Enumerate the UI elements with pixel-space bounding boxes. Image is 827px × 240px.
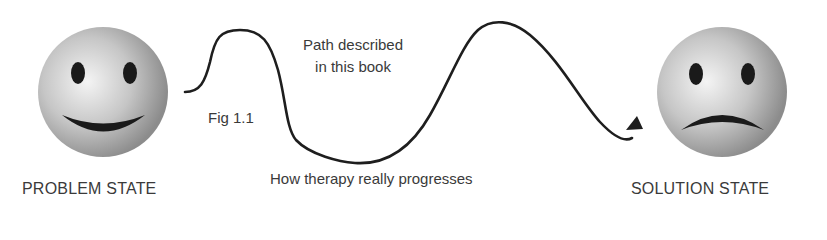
arrowhead-icon	[626, 116, 643, 130]
path-described-line1: Path described	[288, 34, 418, 56]
figure-label: Fig 1.1	[208, 107, 254, 129]
problem-state-label: PROBLEM STATE	[22, 180, 156, 198]
path-described-label: Path described in this book	[288, 34, 418, 78]
path-described-line2: in this book	[288, 56, 418, 78]
frowning-face-icon	[657, 27, 787, 157]
therapy-progress-label: How therapy really progresses	[270, 168, 473, 190]
solution-state-label: SOLUTION STATE	[631, 180, 769, 198]
smiling-face-icon	[38, 27, 168, 157]
